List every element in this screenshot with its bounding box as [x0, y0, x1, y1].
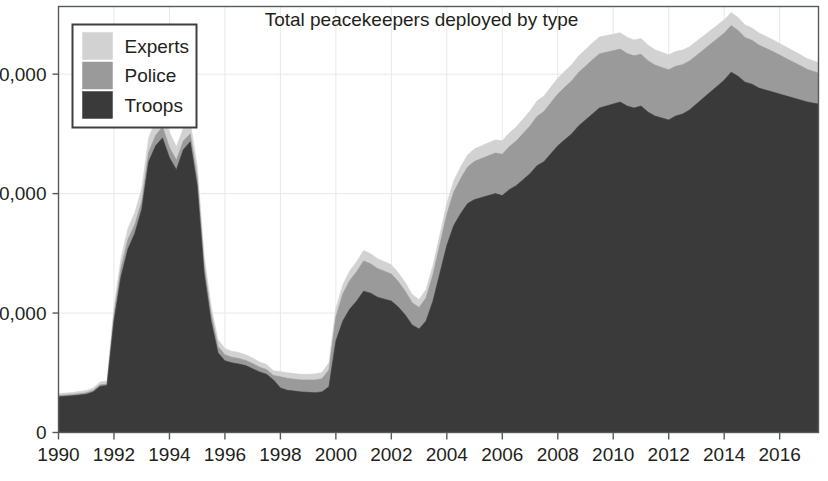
stacked-area-chart: 030,00060,00090,000 19901992199419961998… [0, 0, 828, 481]
x-axis-tick-label: 1990 [37, 444, 79, 465]
legend-swatch-troops [83, 92, 113, 119]
legend-label-experts: Experts [125, 36, 189, 57]
y-axis-tick-label: 0 [36, 422, 47, 443]
x-axis-tick-label: 2006 [481, 444, 523, 465]
x-axis-tick-label: 1996 [204, 444, 246, 465]
chart-figure: 030,00060,00090,000 19901992199419961998… [0, 0, 828, 481]
x-axis-tick-label: 2010 [592, 444, 634, 465]
y-axis-tick-label: 30,000 [0, 303, 47, 324]
legend-label-police: Police [125, 65, 177, 86]
x-axis-tick-label: 2014 [703, 444, 746, 465]
x-axis-tick-label: 2016 [759, 444, 801, 465]
x-axis-tick-label: 1998 [259, 444, 301, 465]
chart-title: Total peacekeepers deployed by type [265, 9, 579, 30]
x-axis-tick-label: 1994 [148, 444, 191, 465]
legend-swatch-police [83, 62, 113, 89]
x-axis-tick-label: 2008 [537, 444, 579, 465]
x-axis-tick-label: 1992 [93, 444, 135, 465]
legend-label-troops: Troops [125, 95, 183, 116]
y-axis-tick-label: 60,000 [0, 183, 47, 204]
chart-legend: ExpertsPoliceTroops [73, 25, 197, 128]
x-axis-tick-label: 2012 [648, 444, 690, 465]
x-axis-tick-label: 2000 [315, 444, 357, 465]
y-axis-tick-label: 90,000 [0, 64, 47, 85]
legend-swatch-experts [83, 33, 113, 60]
x-axis-tick-label: 2002 [370, 444, 412, 465]
x-axis-tick-label: 2004 [426, 444, 469, 465]
